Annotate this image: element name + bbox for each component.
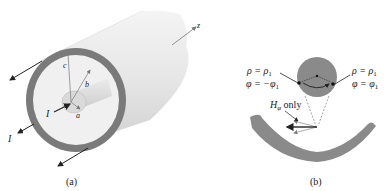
inner-conductor-face: [62, 91, 86, 113]
leader-right: [335, 75, 350, 84]
radius-b-label: b: [85, 80, 89, 89]
radius-c-label: c: [63, 61, 67, 70]
dashed-line-right: [318, 96, 329, 126]
h-phi-only-label: Hφ only: [269, 99, 301, 112]
leader-h-phi: [285, 111, 298, 121]
field-contribution-upper: [294, 121, 317, 127]
figure-b-cross-section: ρ = ρ1 φ = −φ1 ρ = ρ1 φ = φ1 Hφ only (b): [246, 57, 379, 188]
dashed-line-left: [305, 96, 316, 126]
z-axis-label: z: [196, 21, 201, 30]
right-rho-label: ρ = ρ1: [351, 65, 377, 78]
figure-a-coax-cable: z c b a I I (a): [7, 10, 201, 188]
point-right: [331, 82, 335, 86]
left-phi-label: φ = −φ1: [246, 78, 280, 91]
radius-a-label: a: [76, 111, 80, 120]
field-contribution-lower: [294, 127, 317, 133]
left-rho-label: ρ = ρ1: [246, 65, 272, 78]
current-out-label: I: [7, 133, 12, 144]
current-in-label: I: [45, 108, 50, 119]
coax-figure: z c b a I I (a) ρ = ρ1 φ =: [0, 0, 386, 191]
outer-conductor-arc: [250, 115, 376, 162]
figure-b-caption: (b): [310, 176, 322, 188]
return-current-arrow-left: [18, 124, 34, 133]
right-phi-label: φ = φ1: [352, 78, 379, 91]
leader-left: [280, 73, 298, 83]
figure-a-caption: (a): [66, 176, 77, 188]
